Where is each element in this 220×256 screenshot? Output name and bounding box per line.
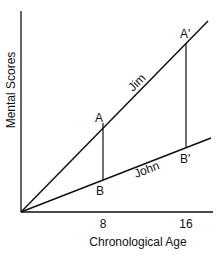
x-axis-label: Chronological Age <box>89 235 187 249</box>
jim-label: Jim <box>125 71 148 94</box>
y-axis-label: Mental Scores <box>4 52 18 129</box>
label-b-prime: B' <box>180 152 190 166</box>
john-label: John <box>132 158 161 180</box>
john-line <box>21 138 211 212</box>
x-tick-16: 16 <box>179 217 193 231</box>
jim-line <box>21 21 208 212</box>
x-tick-8: 8 <box>100 217 107 231</box>
label-b: B <box>96 184 104 198</box>
label-a: A <box>95 111 103 125</box>
chart: A B A' B' Jim John 8 16 Chronological Ag… <box>0 0 220 256</box>
label-a-prime: A' <box>180 27 190 41</box>
